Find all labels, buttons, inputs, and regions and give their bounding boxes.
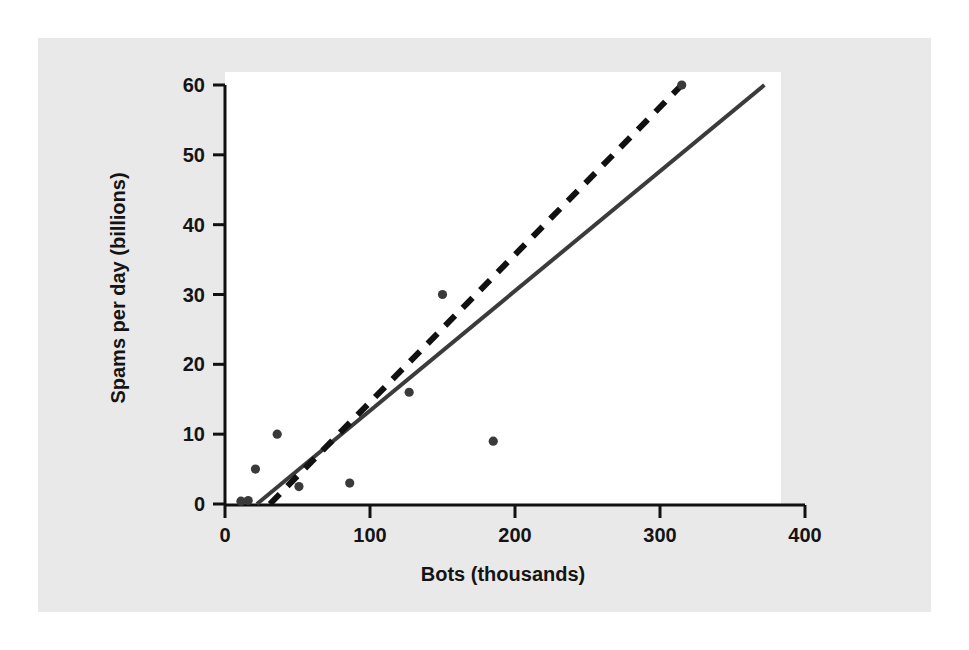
x-tick-label-100: 100: [353, 524, 386, 547]
y-tick-label-10: 10: [0, 423, 205, 446]
data-point-8: [489, 437, 498, 446]
data-point-7: [438, 290, 447, 299]
solid-fit-line: [257, 85, 765, 504]
data-points-group: [236, 80, 686, 505]
x-tick-label-400: 400: [788, 524, 821, 547]
data-point-9: [677, 80, 686, 89]
x-tick-label-200: 200: [498, 524, 531, 547]
y-tick-label-40: 40: [0, 213, 205, 236]
axes-group: [213, 85, 805, 518]
fit-lines-group: [257, 85, 765, 504]
y-tick-label-0: 0: [0, 493, 205, 516]
x-tick-label-300: 300: [643, 524, 676, 547]
data-point-2: [251, 464, 260, 473]
data-point-4: [294, 482, 303, 491]
data-point-3: [273, 430, 282, 439]
y-axis-label: Spams per day (billions): [107, 172, 130, 403]
y-tick-label-20: 20: [0, 353, 205, 376]
data-point-1: [244, 496, 253, 505]
y-tick-label-60: 60: [0, 74, 205, 97]
x-axis-label: Bots (thousands): [421, 563, 585, 586]
plot-svg: [0, 0, 969, 650]
data-point-5: [345, 478, 354, 487]
y-tick-label-30: 30: [0, 283, 205, 306]
dashed-fit-line: [270, 85, 682, 504]
figure: 0102030405060 0100200300400 Spams per da…: [0, 0, 969, 650]
x-tick-label-0: 0: [219, 524, 230, 547]
data-point-6: [405, 388, 414, 397]
y-tick-label-50: 50: [0, 143, 205, 166]
